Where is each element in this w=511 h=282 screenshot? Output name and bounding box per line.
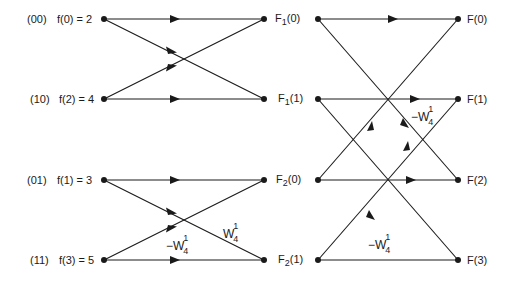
twiddle-neg-w41-stage1: −W14 [166, 240, 184, 252]
butterfly-graph [0, 0, 511, 282]
input-label-0: f(0) = 2 [57, 13, 92, 25]
fft-butterfly-diagram: (00) f(0) = 2 (10) f(2) = 4 (01) f(1) = … [0, 0, 511, 282]
input-bits-3: (11) [30, 254, 49, 266]
output-label-2: F(2) [467, 174, 487, 186]
intermediate-label-3: F2(1) [278, 253, 303, 266]
input-label-1: f(2) = 4 [59, 93, 94, 105]
intermediate-label-1: F1(1) [278, 92, 303, 105]
input-bits-1: (10) [30, 93, 50, 105]
output-label-0: F(0) [467, 13, 487, 25]
input-bits-0: (00) [27, 13, 47, 25]
input-bits-2: (01) [27, 174, 47, 186]
output-label-1: F(1) [467, 93, 487, 105]
twiddle-neg-w41-F3: −W14 [368, 239, 386, 251]
input-label-2: f(1) = 3 [57, 174, 92, 186]
intermediate-label-0: F1(0) [275, 12, 300, 25]
output-label-3: F(3) [467, 254, 487, 266]
twiddle-w41-stage1: W14 [223, 228, 234, 240]
twiddle-neg-w41-F1: −W14 [411, 111, 429, 123]
intermediate-label-2: F2(0) [276, 173, 301, 186]
input-label-3: f(3) = 5 [59, 254, 94, 266]
